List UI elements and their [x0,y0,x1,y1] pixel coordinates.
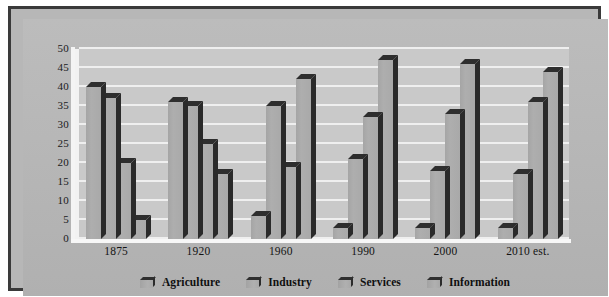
bar [251,216,266,239]
bar [498,228,513,239]
bar-side-3d [393,55,398,239]
x-axis-tick-label: 1875 [75,245,157,257]
bar-swatch-icon [427,277,442,288]
bar-side-3d [558,67,563,239]
bar-side-3d [213,139,218,239]
bar-group [75,49,157,239]
y-axis-tick-label: 5 [39,214,69,225]
legend-item[interactable]: Information [427,276,510,288]
x-axis-tick-label: 1960 [240,245,322,257]
bar-side-3d [445,166,450,239]
chart-outer-frame: 05101520253035404550 1875192019601990200… [8,6,601,291]
bar-face [333,228,348,239]
bar-group [487,49,569,239]
bars-layer [75,49,569,239]
bar-side-3d [296,162,301,239]
x-axis-tick-label: 2010 est. [487,245,569,257]
swatch-top [427,277,443,280]
y-axis-tick-label: 20 [39,157,69,168]
bar-face [86,87,101,239]
bar-side-3d [460,109,465,239]
bar-side-3d [101,82,106,239]
y-axis-tick-label: 40 [39,81,69,92]
bar-side-3d [378,112,383,239]
y-axis-tick-label: 35 [39,100,69,111]
legend-item[interactable]: Services [338,276,401,288]
legend-label: Agriculture [162,276,220,288]
y-axis-labels: 05101520253035404550 [31,49,69,239]
y-axis-tick-label: 30 [39,119,69,130]
x-axis-tick-label: 1990 [322,245,404,257]
y-axis-tick-label: 45 [39,62,69,73]
y-axis-tick-label: 10 [39,195,69,206]
bar-group [322,49,404,239]
x-axis-tick-label: 2000 [404,245,486,257]
bar-swatch-icon [140,277,155,288]
bar-side-3d [475,59,480,239]
bar [415,228,430,239]
swatch-top [140,277,156,280]
bar-face [498,228,513,239]
x-axis-labels: 187519201960199020002010 est. [75,245,569,263]
y-axis-tick-label: 25 [39,138,69,149]
chart-panel: 05101520253035404550 1875192019601990200… [23,19,608,296]
chart-legend: AgricultureIndustryServicesInformation [75,271,575,293]
bar-side-3d [183,97,188,239]
swatch-top [338,277,354,280]
bar-side-3d [228,169,233,239]
bar-side-3d [281,101,286,239]
bar [333,228,348,239]
chart-screenshot: 05101520253035404550 1875192019601990200… [0,0,609,297]
x-axis-tick-label: 1920 [157,245,239,257]
legend-label: Services [360,276,401,288]
bar-face [415,228,430,239]
legend-item[interactable]: Industry [246,276,312,288]
legend-item[interactable]: Agriculture [140,276,220,288]
bar-group [157,49,239,239]
bar-side-3d [198,101,203,239]
bar-swatch-icon [246,277,261,288]
bar-swatch-icon [338,277,353,288]
bar-face [251,216,266,239]
y-axis-tick-label: 15 [39,176,69,187]
bar-group [240,49,322,239]
bar-side-3d [311,74,316,239]
y-axis-tick-label: 50 [39,43,69,54]
bar-face [168,102,183,239]
bar-group [404,49,486,239]
legend-label: Industry [268,276,312,288]
x-axis-line [71,239,571,243]
bar-side-3d [543,97,548,239]
bar [86,87,101,239]
bar-side-3d [363,154,368,239]
bar-side-3d [528,169,533,239]
bar-side-3d [131,158,136,239]
y-axis-tick-label: 0 [39,233,69,244]
swatch-top [246,277,262,280]
bar-side-3d [116,93,121,239]
bar [168,102,183,239]
legend-label: Information [449,276,510,288]
